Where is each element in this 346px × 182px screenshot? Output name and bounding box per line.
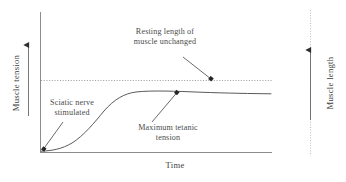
annotation-sciatic-nerve: Sciatic nerve stimulated <box>34 98 110 118</box>
x-axis-label: Time <box>120 160 230 170</box>
sciatic-nerve-arrow-icon <box>44 122 64 149</box>
annotation-resting-length: Resting length of muscle unchanged <box>104 27 226 47</box>
resting-length-arrow-icon <box>183 57 211 79</box>
muscle-tension-figure: Resting length of muscle unchanged Sciat… <box>0 0 346 182</box>
y-axis-left-label: Muscle tension <box>11 31 21 135</box>
y-axis-right-label: Muscle length <box>325 31 335 135</box>
annotation-maximum-tetanic: Maximum tetanic tension <box>116 123 220 143</box>
maximum-tetanic-arrow-icon <box>152 93 177 123</box>
